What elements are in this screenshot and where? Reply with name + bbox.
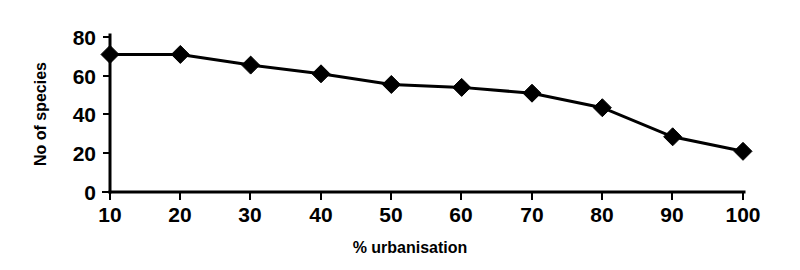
chart-container: 0 20 40 60 80 10 20 30 40 50 60 70 80 90… xyxy=(0,0,800,270)
y-tick-label: 40 xyxy=(73,103,96,126)
x-tick-label: 40 xyxy=(309,203,332,226)
x-tick-label: 100 xyxy=(725,203,760,226)
x-axis-title: % urbanisation xyxy=(353,239,468,256)
x-tick-label: 30 xyxy=(238,203,261,226)
x-tick-label: 60 xyxy=(449,203,472,226)
y-axis-title: No of species xyxy=(32,62,49,166)
y-tick-label: 0 xyxy=(84,181,96,204)
x-tick-label: 80 xyxy=(590,203,613,226)
y-tick-label: 20 xyxy=(73,142,96,165)
x-tick-label: 20 xyxy=(168,203,191,226)
x-tick-label: 90 xyxy=(660,203,683,226)
x-tick-label: 70 xyxy=(520,203,543,226)
x-tick-label: 50 xyxy=(379,203,402,226)
x-tick-label: 10 xyxy=(98,203,121,226)
y-tick-label: 60 xyxy=(73,65,96,88)
y-tick-label: 80 xyxy=(73,26,96,49)
line-chart: 0 20 40 60 80 10 20 30 40 50 60 70 80 90… xyxy=(0,0,800,270)
